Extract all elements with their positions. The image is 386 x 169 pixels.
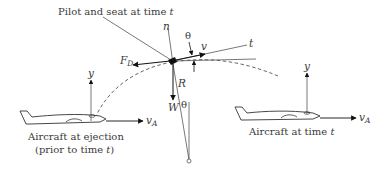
pilot-callout-label: Pilot and seat at time t	[58, 6, 175, 17]
y-left-label: y	[87, 67, 95, 79]
vA-right-label: vA	[359, 111, 371, 125]
horizontal-reference-line	[172, 59, 256, 61]
center-of-curvature	[187, 159, 191, 163]
ejection-seat-diagram: Pilot and seat at time t n t θ v FD R W …	[0, 0, 386, 169]
aircraft-time-t-caption: Aircraft at time t	[248, 126, 335, 137]
theta-arrow-top	[189, 42, 192, 55]
theta-bottom-label: θ	[181, 99, 187, 110]
vA-left-label: vA	[146, 114, 158, 128]
aircraft-ejection-caption-line2: (prior to time t)	[35, 144, 114, 155]
t-axis-label: t	[249, 37, 254, 49]
theta-top-label: θ	[185, 30, 191, 41]
pilot-callout-leader	[103, 17, 171, 60]
reaction-label: R	[177, 77, 186, 89]
aircraft-ejection-caption-line1: Aircraft at ejection	[27, 131, 124, 142]
velocity-arrow	[176, 54, 205, 60]
weight-label: W	[168, 101, 180, 113]
velocity-label: v	[201, 40, 207, 52]
drag-force-arrow	[133, 61, 170, 65]
n-axis-label: n	[163, 20, 170, 32]
y-right-label: y	[303, 60, 311, 72]
drag-force-label: FD	[119, 54, 133, 68]
aircraft-at-ejection	[20, 111, 106, 124]
